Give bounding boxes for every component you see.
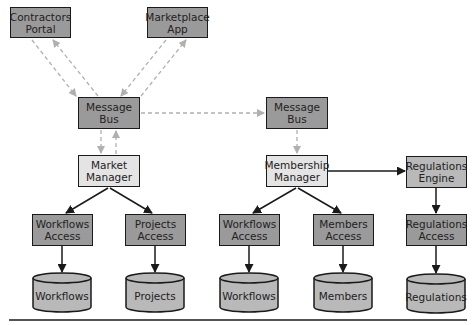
members-access-node: MembersAccess (313, 214, 374, 246)
db-label-workflows-left: Workflows (33, 290, 91, 302)
node-label: Access (138, 230, 174, 242)
db-label-projects: Projects (126, 290, 184, 302)
marketplace-app-node: MarketplaceApp (147, 7, 208, 38)
node-label: Message (86, 101, 132, 113)
regulations-access-node: RegulationsAccess (406, 214, 467, 246)
node-label: Access (326, 230, 362, 242)
node-label: Regulations (406, 160, 468, 172)
node-label: Contractors (10, 11, 71, 23)
node-label: Access (45, 230, 81, 242)
projects-access-node: ProjectsAccess (125, 214, 186, 246)
node-label: Projects (135, 218, 176, 230)
regulations-engine-node: RegulationsEngine (406, 156, 467, 188)
workflows-access-right-node: WorkflowsAccess (219, 214, 280, 246)
membership-manager-node: MembershipManager (266, 155, 328, 187)
db-label-workflows-right: Workflows (220, 290, 278, 302)
node-label: Access (232, 230, 268, 242)
node-label: Access (419, 230, 455, 242)
message-bus-left-node: MessageBus (78, 97, 140, 129)
node-label: Workflows (223, 218, 277, 230)
connections-layer (0, 0, 473, 325)
node-label: Bus (287, 113, 306, 125)
node-label: Manager (274, 171, 320, 183)
node-label: Manager (86, 171, 132, 183)
node-label: Bus (99, 113, 118, 125)
node-label: Workflows (36, 218, 90, 230)
node-label: Engine (419, 172, 455, 184)
node-label: Message (274, 101, 320, 113)
node-label: Regulations (406, 218, 468, 230)
db-label-regulations: Regulations (402, 291, 470, 303)
node-label: Marketplace (145, 11, 209, 23)
market-manager-node: MarketManager (78, 155, 140, 187)
message-bus-right-node: MessageBus (266, 97, 328, 129)
node-label: Membership (265, 159, 330, 171)
node-label: Portal (25, 23, 55, 35)
node-label: App (167, 23, 188, 35)
workflows-access-left-node: WorkflowsAccess (32, 214, 93, 246)
contractors-portal-node: ContractorsPortal (10, 7, 71, 38)
db-label-members: Members (314, 290, 372, 302)
node-label: Members (319, 218, 368, 230)
node-label: Market (91, 159, 127, 171)
